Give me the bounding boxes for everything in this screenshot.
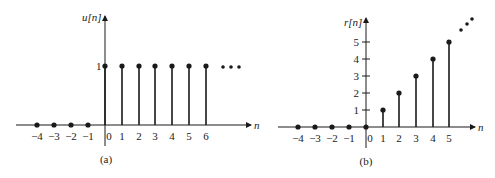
stems-a: [102, 63, 208, 125]
svg-text:−2: −2: [326, 132, 338, 144]
ellipsis-b: [459, 17, 474, 32]
svg-text:5: 5: [446, 132, 452, 144]
svg-text:4: 4: [430, 132, 436, 144]
svg-text:4: 4: [169, 130, 175, 142]
svg-text:−1: −1: [82, 130, 94, 142]
svg-text:4: 4: [354, 53, 360, 65]
svg-text:0: 0: [367, 132, 373, 144]
stem-plots: u[n] n 1 −4 −3 −2 −1 0 1 2 3: [0, 0, 495, 178]
sample-b-n-4: [295, 124, 300, 129]
svg-text:2: 2: [136, 130, 142, 142]
svg-text:3: 3: [413, 132, 419, 144]
x-axis-label-a: n: [254, 119, 260, 131]
svg-text:−3: −3: [48, 130, 60, 142]
svg-text:0: 0: [106, 130, 112, 142]
svg-text:−4: −4: [31, 130, 43, 142]
sample-a-n-1: [85, 122, 90, 127]
svg-text:1: 1: [354, 104, 360, 116]
svg-text:−3: −3: [309, 132, 321, 144]
x-tick-labels-b: −4 −3 −2 −1 0 1 2 3 4 5: [292, 132, 452, 144]
svg-text:3: 3: [354, 70, 360, 82]
caption-a: (a): [100, 153, 113, 166]
sample-b-n0: [363, 124, 368, 129]
stems-b: [380, 39, 451, 127]
svg-text:1: 1: [380, 132, 386, 144]
y-axis-label-b: r[n]: [344, 16, 362, 28]
y-axis-label-a: u[n]: [82, 11, 102, 23]
sample-b-n-2: [329, 124, 334, 129]
x-axis-label-b: n: [478, 121, 484, 133]
x-tick-labels-a: −4 −3 −2 −1 0 1 2 3 4 5 6: [31, 130, 209, 142]
sample-a-n-2: [68, 122, 73, 127]
y-tick-labels-b: 1 2 3 4 5: [354, 36, 360, 116]
svg-text:−4: −4: [292, 132, 304, 144]
ellipsis-a: [221, 65, 241, 69]
svg-text:6: 6: [203, 130, 209, 142]
unit-ramp-plot: r[n] n 1 2 3 4 5: [278, 16, 484, 168]
y-tick-1-a: 1: [96, 60, 102, 72]
svg-text:−1: −1: [343, 132, 355, 144]
sample-a-n-3: [51, 122, 56, 127]
svg-text:1: 1: [119, 130, 125, 142]
sample-b-n-1: [346, 124, 351, 129]
unit-step-plot: u[n] n 1 −4 −3 −2 −1 0 1 2 3: [16, 11, 260, 166]
svg-text:2: 2: [396, 132, 402, 144]
sample-b-n-3: [312, 124, 317, 129]
caption-b: (b): [360, 155, 373, 168]
svg-text:−2: −2: [65, 130, 77, 142]
svg-text:2: 2: [354, 87, 360, 99]
svg-text:5: 5: [186, 130, 192, 142]
sample-a-n-4: [34, 122, 39, 127]
svg-text:3: 3: [152, 130, 158, 142]
svg-text:5: 5: [354, 36, 360, 48]
